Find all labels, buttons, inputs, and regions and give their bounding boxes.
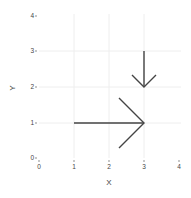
gridlines bbox=[39, 14, 181, 158]
y-tick-label: 0 bbox=[30, 154, 34, 161]
arrow-2 bbox=[132, 51, 156, 87]
y-tick-label: 3 bbox=[30, 47, 34, 54]
y-axis-title: Y bbox=[8, 85, 17, 91]
y-tick-label: 2 bbox=[30, 83, 34, 90]
x-tick-label: 0 bbox=[37, 163, 41, 170]
x-axis-ticks: 0 1 2 3 4 bbox=[37, 160, 181, 170]
x-axis-title: X bbox=[106, 178, 112, 187]
y-axis-ticks: 4 3 2 1 0 bbox=[30, 12, 37, 161]
x-tick-label: 4 bbox=[177, 163, 181, 170]
y-tick-label: 4 bbox=[30, 12, 34, 19]
quiver-chart: 4 3 2 1 0 0 1 2 3 4 X Y bbox=[0, 0, 191, 198]
x-tick-label: 3 bbox=[142, 163, 146, 170]
x-tick-label: 1 bbox=[72, 163, 76, 170]
y-tick-label: 1 bbox=[30, 119, 34, 126]
x-tick-label: 2 bbox=[107, 163, 111, 170]
